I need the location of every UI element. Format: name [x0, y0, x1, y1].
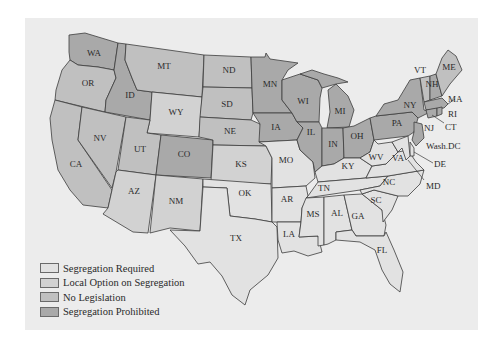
- label-TN: TN: [318, 183, 330, 193]
- label-NM: NM: [169, 196, 184, 206]
- label-IN: IN: [328, 139, 338, 149]
- label-IA: IA: [271, 122, 281, 132]
- label-CO: CO: [178, 149, 191, 159]
- label-VT: VT: [414, 65, 426, 75]
- label-TX: TX: [230, 233, 242, 243]
- swatch-none: [40, 292, 59, 302]
- label-NH: NH: [426, 79, 439, 89]
- legend-label: Local Option on Segregation: [63, 277, 185, 288]
- label-CA: CA: [70, 159, 83, 169]
- label-NJ: NJ: [424, 123, 434, 133]
- label-DC: Wash.DC: [426, 141, 461, 151]
- swatch-prohibited: [40, 307, 59, 317]
- label-ME: ME: [442, 62, 456, 72]
- state-FL: [336, 230, 403, 292]
- legend-item-local: Local Option on Segregation: [40, 276, 185, 291]
- label-SD: SD: [221, 99, 233, 109]
- label-WI: WI: [297, 96, 309, 106]
- label-AR: AR: [281, 194, 294, 204]
- label-MA: MA: [448, 94, 463, 104]
- label-ND: ND: [223, 65, 236, 75]
- label-AZ: AZ: [128, 186, 140, 196]
- label-WV: WV: [369, 152, 384, 162]
- label-IL: IL: [307, 127, 316, 137]
- label-AL: AL: [331, 208, 343, 218]
- legend-item-prohibited: Segregation Prohibited: [40, 305, 185, 320]
- label-OR: OR: [82, 78, 95, 88]
- state-CT: [426, 108, 437, 118]
- label-PA: PA: [392, 118, 403, 128]
- label-GA: GA: [352, 211, 365, 221]
- label-WA: WA: [87, 48, 101, 58]
- label-RI: RI: [448, 109, 457, 119]
- legend-item-none: No Legislation: [40, 290, 185, 305]
- label-VA: VA: [392, 153, 404, 163]
- label-ID: ID: [125, 90, 135, 100]
- label-KS: KS: [235, 159, 247, 169]
- label-CT: CT: [445, 122, 457, 132]
- label-MT: MT: [157, 61, 171, 71]
- state-DE: [410, 142, 414, 156]
- label-NV: NV: [94, 133, 107, 143]
- label-MO: MO: [279, 155, 294, 165]
- swatch-local: [40, 278, 59, 288]
- legend: Segregation Required Local Option on Seg…: [40, 261, 185, 319]
- label-KY: KY: [342, 161, 355, 171]
- label-NE: NE: [224, 126, 236, 136]
- label-WY: WY: [169, 107, 184, 117]
- legend-label: No Legislation: [63, 292, 126, 303]
- legend-item-required: Segregation Required: [40, 261, 185, 276]
- label-LA: LA: [283, 229, 295, 239]
- label-MD: MD: [426, 181, 441, 191]
- swatch-required: [40, 263, 59, 273]
- label-UT: UT: [134, 144, 146, 154]
- label-MN: MN: [263, 79, 278, 89]
- label-MI: MI: [335, 106, 346, 116]
- label-SC: SC: [370, 195, 381, 205]
- label-DE: DE: [434, 159, 446, 169]
- label-NY: NY: [404, 100, 417, 110]
- label-FL: FL: [377, 245, 388, 255]
- state-ME: [436, 50, 462, 96]
- label-OH: OH: [351, 131, 364, 141]
- leader-DE: [414, 152, 433, 163]
- state-RI: [437, 107, 442, 116]
- leader-CT: [432, 115, 444, 123]
- label-NC: NC: [383, 177, 396, 187]
- label-MS: MS: [306, 209, 319, 219]
- state-NJ: [412, 122, 424, 146]
- legend-label: Segregation Required: [63, 263, 154, 274]
- legend-label: Segregation Prohibited: [63, 306, 160, 317]
- label-OK: OK: [239, 188, 252, 198]
